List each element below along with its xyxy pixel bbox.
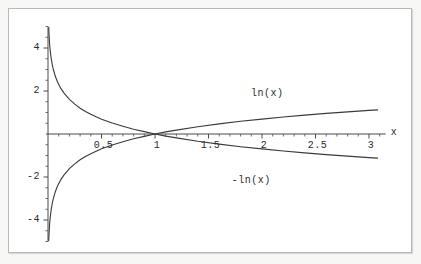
x-axis-label: x	[391, 127, 398, 138]
y-tick-label: 2	[33, 85, 40, 96]
axes-group	[44, 27, 386, 242]
x-tick-label: 0.5	[94, 140, 114, 151]
plot-area	[9, 9, 411, 252]
x-tick-label: 1	[154, 140, 161, 151]
y-tick-label: 4	[33, 42, 40, 53]
plot-frame: 0.511.522.53-4-224xln(x)-ln(x)	[8, 8, 412, 253]
curve-label-neg-ln-x: -ln(x)	[232, 175, 271, 186]
curve-neg-ln-x	[49, 27, 378, 158]
figure-canvas: 0.511.522.53-4-224xln(x)-ln(x)	[0, 0, 421, 264]
x-tick-label: 2	[261, 140, 268, 151]
curve-ln-x	[49, 110, 378, 241]
x-tick-label: 1.5	[201, 140, 221, 151]
x-tick-label: 2.5	[308, 140, 328, 151]
curve-label-ln-x: ln(x)	[251, 88, 284, 99]
y-tick-label: -4	[27, 214, 40, 225]
y-tick-label: -2	[27, 171, 40, 182]
x-tick-label: 3	[368, 140, 375, 151]
